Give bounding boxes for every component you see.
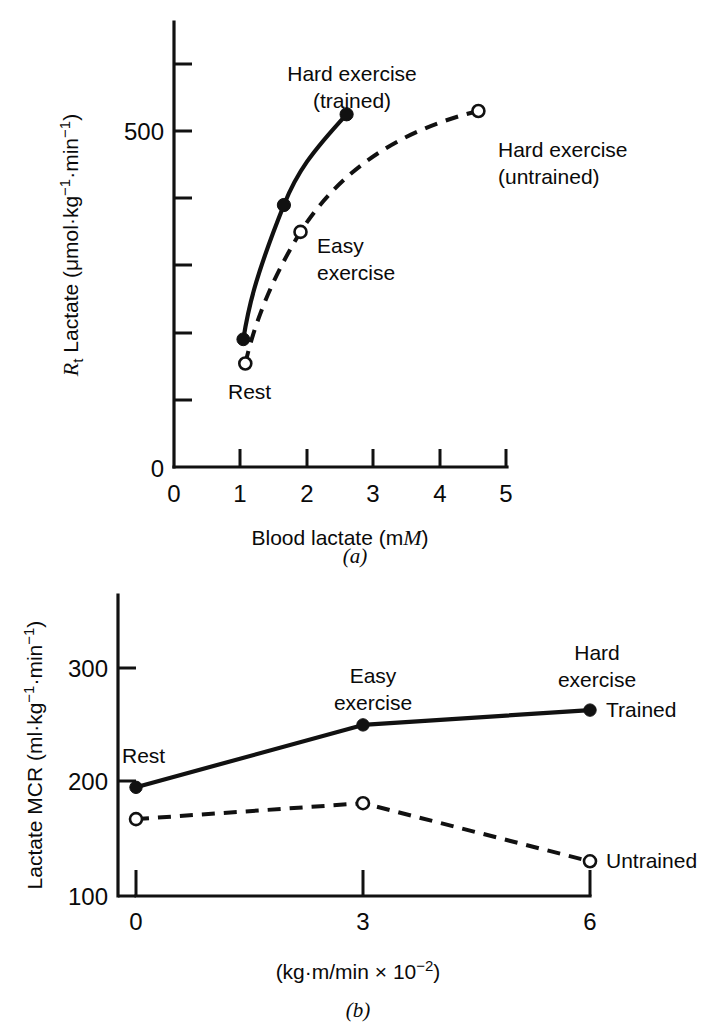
panel-a-xtick-1: 1 — [233, 480, 246, 507]
panel-a-trained-point-rest — [237, 333, 250, 346]
panel-a-xlabel-suffix: ) — [422, 526, 429, 549]
panel-a-ylabel-R: R — [58, 362, 83, 377]
panel-a-xlabel-italic: M — [402, 525, 423, 550]
panel-b-ylabel-exp1: −1 — [20, 686, 37, 703]
panel-a-xtick-3: 3 — [366, 480, 379, 507]
panel-a-xtick-5: 5 — [499, 480, 512, 507]
panel-b-ytick-200: 200 — [68, 768, 108, 795]
panel-a-annot-hard-untrained-line2: (untrained) — [498, 165, 600, 188]
panel-a-untrained-point-easy — [295, 226, 307, 238]
panel-a-ylabel-exp2: −1 — [56, 121, 73, 138]
panel-b-untrained-point-rest — [130, 813, 142, 825]
panel-a-y-ticks — [174, 64, 192, 400]
panel-a-y-axis-title: Rt Lactate (μmol·kg−1·min−1) — [56, 114, 86, 377]
chart-panel-a: 500 0 0 1 2 3 4 5 Rt Lactate (μmol·kg−1·… — [0, 0, 710, 570]
panel-b-legend-untrained: Untrained — [606, 849, 697, 872]
panel-b-plot: 300 200 100 0 3 6 Lactate MCR (ml·kg−1·m… — [0, 570, 710, 1022]
panel-b-ytick-100: 100 — [68, 883, 108, 910]
panel-b-ytick-300: 300 — [68, 655, 108, 682]
chart-panel-b: 300 200 100 0 3 6 Lactate MCR (ml·kg−1·m… — [0, 570, 710, 1022]
panel-b-x-ticks — [136, 870, 590, 896]
panel-a-ylabel-rest: Lactate (μmol·kg — [59, 196, 82, 359]
panel-b-untrained-point-easy — [357, 797, 369, 809]
panel-b-untrained-line — [136, 803, 590, 861]
panel-b-xlabel-suffix: ) — [433, 960, 440, 983]
panel-b-ylabel-prefix: Lactate MCR (ml·kg — [23, 703, 46, 890]
panel-a-x-axis-title: Blood lactate (mM) — [251, 525, 428, 550]
panel-a-annot-hard-trained-line1: Hard exercise — [287, 62, 417, 85]
panel-a-xlabel-prefix: Blood lactate (m — [251, 526, 403, 549]
panel-b-xlabel-prefix: (kg·m/min × 10 — [276, 960, 417, 983]
panel-a-ylabel-exp1: −1 — [56, 179, 73, 196]
panel-a-untrained-point-hard — [472, 105, 484, 117]
panel-a-annot-hard-trained-line2: (trained) — [313, 89, 391, 112]
panel-a-untrained-point-rest — [239, 358, 251, 370]
panel-a-annot-hard-untrained-line1: Hard exercise — [498, 138, 628, 161]
panel-b-ylabel-exp2: −1 — [20, 628, 37, 645]
panel-b-ylabel-mid: ·min — [23, 645, 46, 686]
panel-b-xtick-3: 3 — [356, 908, 369, 935]
panel-a-xtick-4: 4 — [433, 480, 446, 507]
panel-b-annot-hard-line2: exercise — [558, 668, 636, 691]
panel-a-ylabel-mid: ·min — [59, 138, 82, 179]
panel-b-trained-point-easy — [357, 719, 369, 731]
panel-a-ytick-0: 0 — [151, 455, 164, 482]
panel-b-untrained-point-hard — [584, 855, 596, 867]
panel-b-label: (b) — [346, 998, 371, 1022]
panel-a-annot-easy-line2: exercise — [317, 261, 395, 284]
panel-b-annot-hard-line1: Hard — [574, 641, 620, 664]
panel-b-ylabel-close: ) — [23, 621, 46, 628]
panel-a-x-ticks — [240, 449, 506, 467]
panel-a-annot-easy-line1: Easy — [317, 234, 364, 257]
panel-a-annot-rest: Rest — [228, 380, 271, 403]
panel-b-annot-rest: Rest — [122, 744, 165, 767]
panel-b-trained-point-hard — [584, 704, 596, 716]
panel-a-xtick-2: 2 — [300, 480, 313, 507]
panel-a-label: (a) — [343, 544, 368, 568]
panel-a-ytick-500: 500 — [124, 118, 164, 145]
panel-b-x-axis-title: (kg·m/min × 10−2) — [276, 957, 441, 983]
panel-b-y-axis-title: Lactate MCR (ml·kg−1·min−1) — [20, 621, 46, 890]
panel-a-xtick-0: 0 — [167, 480, 180, 507]
panel-b-xlabel-exp: −2 — [416, 957, 433, 974]
panel-b-annot-easy-line1: Easy — [350, 664, 397, 687]
panel-b-annot-easy-line2: exercise — [334, 691, 412, 714]
figure-container: 500 0 0 1 2 3 4 5 Rt Lactate (μmol·kg−1·… — [0, 0, 710, 1022]
panel-b-legend-trained: Trained — [606, 698, 676, 721]
panel-a-svg: 500 0 0 1 2 3 4 5 Rt Lactate (μmol·kg−1·… — [0, 0, 710, 570]
panel-b-xtick-0: 0 — [129, 908, 142, 935]
panel-b-xtick-6: 6 — [583, 908, 596, 935]
panel-a-trained-point-easy — [277, 198, 290, 211]
panel-a-trained-line — [243, 114, 346, 339]
panel-b-trained-point-rest — [130, 781, 142, 793]
panel-a-ylabel-close: ) — [59, 114, 82, 121]
